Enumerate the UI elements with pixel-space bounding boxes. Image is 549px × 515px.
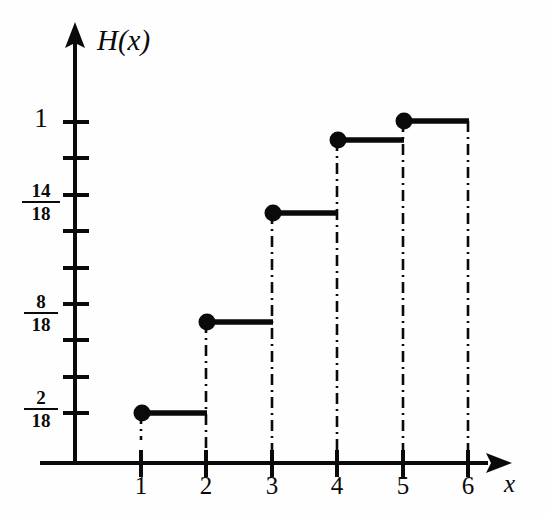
step-marker-1 (134, 405, 151, 422)
y-tick-label-8-18: 8 18 (24, 292, 58, 334)
y-tick-label-2-18-denominator: 18 (24, 411, 58, 430)
y-axis-group (65, 22, 85, 463)
y-tick-label-8-18-denominator: 18 (24, 315, 58, 334)
step-function-figure: H(x) 1 14 18 8 18 2 18 1 2 3 4 5 6 x (0, 0, 549, 515)
x-tick-label-4: 4 (322, 472, 352, 500)
step-marker-5 (396, 113, 413, 130)
step-marker-4 (330, 132, 347, 149)
x-tick-label-2: 2 (191, 472, 221, 500)
y-tick-label-2-18: 2 18 (24, 388, 58, 430)
step-marker-2 (199, 314, 216, 331)
y-tick-label-8-18-numerator: 8 (24, 292, 58, 311)
y-tick-label-1: 1 (26, 103, 56, 134)
y-axis-title: H(x) (97, 24, 150, 57)
drop-lines-group (206, 121, 468, 463)
y-tick-label-14-18: 14 18 (22, 181, 60, 223)
x-axis-group (40, 453, 512, 473)
y-tick-label-14-18-denominator: 18 (22, 204, 60, 223)
y-tick-label-2-18-numerator: 2 (24, 388, 58, 407)
chart-canvas (0, 0, 549, 515)
x-axis-title: x (504, 470, 515, 498)
x-tick-label-1: 1 (126, 472, 156, 500)
step-marker-3 (265, 205, 282, 222)
x-tick-label-3: 3 (257, 472, 287, 500)
x-tick-label-5: 5 (388, 472, 418, 500)
step-segments-group (141, 121, 469, 413)
y-tick-label-14-18-numerator: 14 (22, 181, 60, 200)
x-tick-label-6: 6 (453, 472, 483, 500)
